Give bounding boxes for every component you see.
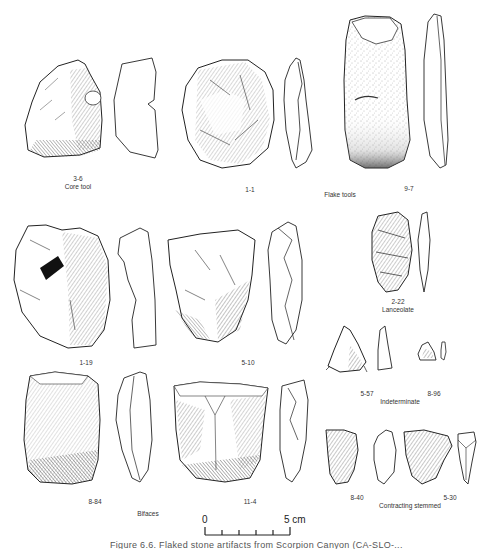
artifact-5-57-face (326, 326, 367, 372)
scale-bar (205, 527, 290, 535)
artifact-5-10-face (168, 230, 255, 342)
artifact-label-5-10: 5-10 (241, 359, 254, 367)
figure-caption: Figure 6.6. Flaked stone artifacts from … (110, 540, 403, 549)
artifact-1-19-face (14, 225, 110, 348)
scale-bar-end-label: 5 cm (284, 514, 306, 525)
artifact-label-8-96: 8-96 (427, 390, 440, 398)
artifact-label-2-22: 2-22 (391, 298, 404, 306)
artifact-5-57-profile (378, 326, 392, 370)
artifact-9-7-profile (424, 14, 448, 168)
artifact-8-40-face (326, 430, 358, 484)
artifact-label-9-7: 9-7 (404, 185, 413, 193)
artifact-8-84-profile (116, 372, 152, 482)
group-label-flake-tools: Flake tools (324, 191, 355, 199)
artifact-2-22-profile (418, 212, 430, 292)
artifact-label-8-84: 8-84 (88, 498, 101, 506)
artifact-8-96-face (418, 342, 436, 360)
group-label-indeterminate: Indeterminate (380, 398, 420, 406)
artifact-label-11-4: 11-4 (244, 498, 257, 506)
artifact-8-96-profile (441, 342, 446, 360)
artifact-label-5-30: 5-30 (443, 494, 456, 502)
artifact-2-22-face (372, 212, 412, 292)
artifact-1-1-profile (284, 58, 312, 168)
artifact-8-40-profile (374, 430, 396, 484)
figure-plate: 3-6 Core tool 1-1 Flake tools 9-7 1-19 5… (0, 0, 490, 549)
artifact-1-19-profile (118, 228, 156, 348)
artifact-1-1-face (182, 60, 274, 168)
group-label-bifaces: Bifaces (137, 510, 158, 518)
group-label-core-tool: Core tool (65, 183, 91, 191)
artifact-11-4-profile (280, 380, 308, 482)
scale-bar-start-label: 0 (202, 514, 208, 525)
artifact-5-10-profile (268, 222, 302, 344)
artifact-3-6-face (25, 60, 102, 157)
group-label-contracting-stemmed: Contracting stemmed (379, 502, 441, 510)
artifact-label-1-1: 1-1 (245, 186, 254, 194)
artifact-11-4-face (174, 382, 268, 482)
artifact-label-1-19: 1-19 (79, 359, 92, 367)
artifact-3-6-profile (114, 58, 158, 158)
artifact-5-30-face (404, 430, 452, 484)
artifact-8-84-face (24, 372, 100, 484)
artifact-5-30-profile (458, 432, 476, 484)
artifact-label-8-40: 8-40 (350, 494, 363, 502)
artifact-label-5-57: 5-57 (360, 390, 373, 398)
artifact-9-7-face (344, 16, 410, 168)
group-label-lanceolate: Lanceolate (382, 306, 414, 314)
artifact-drawings (0, 0, 490, 549)
artifact-label-3-6: 3-6 (73, 175, 82, 183)
